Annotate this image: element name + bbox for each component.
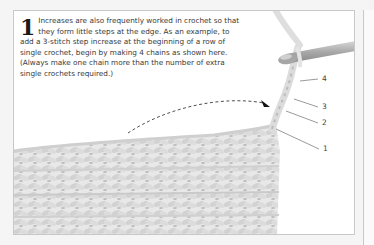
dashed-arrow-icon [128, 100, 270, 133]
leader-lines [276, 79, 319, 149]
adjacent-panel-edge [363, 10, 374, 245]
fabric-swatch-icon [14, 125, 280, 235]
yarn-tail-icon [276, 11, 300, 45]
chain-label-4: 4 [322, 74, 327, 83]
step-number: 1 [20, 18, 35, 36]
step-instruction: 1 Increases are also frequently worked i… [20, 16, 242, 80]
chain-label-1: 1 [323, 144, 328, 153]
chain-label-3: 3 [322, 102, 327, 111]
instruction-panel: 4 3 2 1 1 Increases are also frequently … [13, 10, 355, 235]
step-body-text: Increases are also frequently worked in … [20, 16, 239, 78]
chain-label-2: 2 [322, 118, 327, 127]
crochet-hook-icon [277, 41, 355, 67]
